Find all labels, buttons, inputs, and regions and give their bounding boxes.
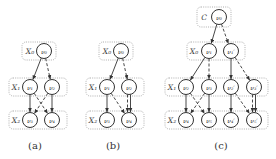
group-label: X₁ bbox=[167, 83, 176, 92]
edge-c-v1-v2 bbox=[190, 57, 205, 80]
node-label: ν₄ bbox=[49, 117, 56, 124]
group-label: X₀ bbox=[189, 47, 198, 56]
node-label: ν₂ bbox=[126, 84, 133, 91]
node-label: ν₂ bbox=[49, 84, 56, 91]
edge-a-v0-v2 bbox=[46, 58, 51, 79]
group-label: X₀ bbox=[102, 47, 111, 56]
edge-c-v0-v1 bbox=[211, 24, 217, 43]
node-label: ν₃ bbox=[206, 84, 213, 91]
node-label: ν₄′ bbox=[227, 117, 235, 124]
node-label: ν₄ bbox=[183, 117, 190, 124]
node-label: ν₁ bbox=[27, 84, 33, 91]
edge-c-v0-v1p bbox=[221, 24, 228, 43]
group-boxes bbox=[9, 7, 268, 129]
figure-canvas: X₀X₁X₂ν₀ν₁ν₂ν₃ν₄(a)X₀X₁X₂ν₀ν₁ν₂ν₃ν₄(b)CX… bbox=[0, 0, 276, 159]
node-label: ν₅ bbox=[206, 117, 213, 124]
node-label: ν₅′ bbox=[250, 117, 258, 124]
group-label: X₂ bbox=[88, 116, 97, 125]
node-label: ν₂′ bbox=[227, 84, 235, 91]
edges bbox=[30, 24, 256, 113]
node-label: ν₀ bbox=[41, 48, 48, 55]
edge-b-v0-v2 bbox=[123, 58, 128, 79]
node-label: ν₀ bbox=[216, 14, 223, 21]
panel-caption-c: (c) bbox=[214, 140, 228, 151]
edge-c-v1p-v3p bbox=[235, 57, 250, 80]
node-label: ν₁ bbox=[104, 84, 110, 91]
edge-b-v0-v1 bbox=[110, 58, 118, 80]
group-label: C bbox=[201, 13, 207, 22]
group-label: X₂ bbox=[11, 116, 20, 125]
node-label: ν₃ bbox=[104, 117, 111, 124]
panel-caption-b: (b) bbox=[106, 140, 120, 151]
node-label: ν₃′ bbox=[250, 84, 258, 91]
edge-a-v0-v1 bbox=[33, 58, 41, 80]
node-label: ν₄ bbox=[126, 117, 133, 124]
group-label: X₂ bbox=[167, 116, 176, 125]
panel-caption-a: (a) bbox=[28, 140, 42, 151]
group-label: X₁ bbox=[88, 83, 97, 92]
group-label: X₁ bbox=[11, 83, 20, 92]
node-label: ν₀ bbox=[118, 48, 125, 55]
group-label: X₀ bbox=[25, 47, 34, 56]
node-label: ν₂ bbox=[183, 84, 190, 91]
node-label: ν₁ bbox=[206, 48, 212, 55]
node-label: ν₁′ bbox=[227, 48, 235, 55]
node-label: ν₃ bbox=[27, 117, 34, 124]
